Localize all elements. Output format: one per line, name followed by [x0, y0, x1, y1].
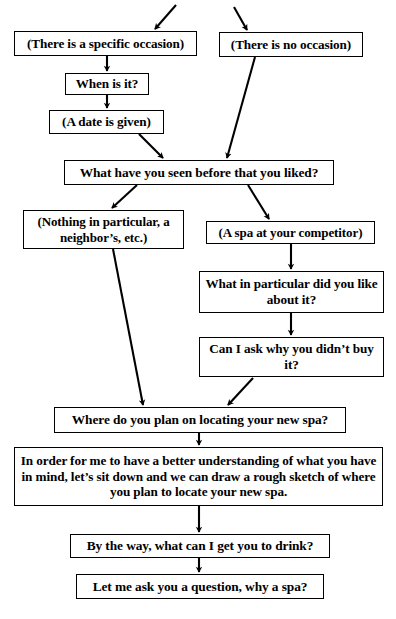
node-what-in-particular-did-you-like: What in particular did you like about it… — [199, 271, 384, 313]
node-what-can-i-get-you-to-drink: By the way, what can I get you to drink? — [70, 534, 330, 558]
node-label: (There is a specific occasion) — [19, 36, 192, 52]
edge-entry-arrow-to-no-occasion — [234, 7, 247, 30]
node-there-is-a-specific-occasion: (There is a specific occasion) — [14, 31, 197, 56]
node-a-spa-at-your-competitor: (A spa at your competitor) — [206, 221, 375, 244]
node-label: What in particular did you like about it… — [204, 276, 379, 307]
edge-nothing-particular-to-where-locate — [113, 249, 143, 405]
edge-entry-arrow-to-specific-occasion — [155, 5, 176, 29]
node-label: (A date is given) — [54, 114, 159, 130]
node-label: (There is no occasion) — [224, 37, 358, 53]
edge-no-occasion-to-seen-before — [227, 57, 255, 158]
node-label: What have you seen before that you liked… — [69, 165, 329, 181]
node-what-have-you-seen-before: What have you seen before that you liked… — [64, 160, 334, 185]
node-there-is-no-occasion: (There is no occasion) — [219, 32, 363, 57]
node-can-i-ask-why-you-didnt-buy-it: Can I ask why you didn’t buy it? — [199, 337, 384, 377]
node-a-date-is-given: (A date is given) — [49, 110, 164, 134]
node-label: Let me ask you a question, why a spa? — [81, 579, 319, 595]
node-label: Where do you plan on locating your new s… — [59, 412, 341, 428]
flowchart-canvas: (There is a specific occasion) (There is… — [0, 0, 396, 619]
edge-why-not-buy-to-where-locate — [228, 378, 253, 405]
node-rough-sketch-statement: In order for me to have a better underst… — [14, 447, 383, 506]
node-label: (A spa at your competitor) — [211, 225, 370, 240]
edge-seen-before-to-spa-competitor — [248, 185, 269, 219]
node-nothing-in-particular: (Nothing in particular, a neighbor’s, et… — [23, 210, 184, 249]
node-label: When is it? — [70, 76, 144, 92]
node-when-is-it: When is it? — [65, 73, 149, 95]
node-label: (Nothing in particular, a neighbor’s, et… — [28, 214, 179, 245]
node-where-do-you-plan-on-locating: Where do you plan on locating your new s… — [54, 407, 346, 433]
node-label: Can I ask why you didn’t buy it? — [204, 341, 379, 372]
node-let-me-ask-you-a-question-why-a-spa: Let me ask you a question, why a spa? — [76, 574, 324, 599]
node-label: In order for me to have a better underst… — [19, 453, 378, 500]
edge-date-given-to-seen-before — [139, 134, 163, 158]
node-label: By the way, what can I get you to drink? — [75, 538, 325, 554]
edge-seen-before-to-nothing-particular — [112, 185, 137, 208]
